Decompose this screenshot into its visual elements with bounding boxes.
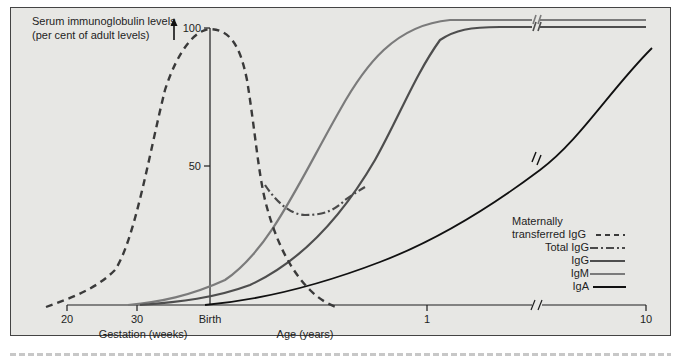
- legend-label-total-igg: Total IgG: [545, 241, 589, 253]
- y-axis-title-line1: Serum immunoglobulin levels: [32, 15, 176, 27]
- y-axis-title-line2: (per cent of adult levels): [32, 29, 149, 41]
- iga-break-marks: [532, 152, 541, 165]
- x-axis-label-gestation: Gestation (weeks): [99, 328, 188, 340]
- legend-label-iga: IgA: [572, 280, 589, 292]
- x-tick-20: 20: [61, 313, 73, 325]
- x-tick-30: 30: [131, 313, 143, 325]
- series-igm-line: [128, 20, 646, 305]
- x-tick-1: 1: [424, 313, 430, 325]
- legend-label-maternal-line2: transferred IgG: [512, 228, 586, 240]
- legend-label-maternal-line1: Maternally: [512, 215, 563, 227]
- legend-label-igm: IgM: [571, 267, 589, 279]
- figure-caption-clipped: [10, 346, 671, 357]
- series-igg-line: [140, 27, 646, 305]
- immunoglobulin-chart: Serum immunoglobulin levels (per cent of…: [0, 0, 681, 357]
- y-tick-100: 100: [183, 22, 201, 34]
- x-axis-label-age: Age (years): [277, 328, 334, 340]
- legend: Maternally transferred IgG Total IgG IgG…: [512, 215, 626, 292]
- y-tick-50: 50: [189, 160, 201, 172]
- x-tick-birth: Birth: [199, 313, 222, 325]
- legend-label-igg: IgG: [571, 254, 589, 266]
- x-tick-10: 10: [640, 313, 652, 325]
